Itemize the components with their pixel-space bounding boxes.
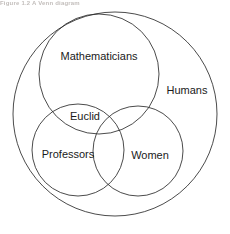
label-euclid: Euclid	[70, 110, 100, 122]
venn-canvas: Mathematicians Humans Euclid Professors …	[0, 0, 230, 234]
label-mathematicians: Mathematicians	[60, 50, 138, 62]
circle-humans[interactable]	[13, 12, 217, 216]
label-professors: Professors	[42, 148, 95, 160]
label-women: Women	[131, 149, 169, 161]
label-humans: Humans	[167, 84, 208, 96]
venn-diagram-figure: Figure 1.2 A Venn diagram Mathematicians…	[0, 0, 230, 234]
